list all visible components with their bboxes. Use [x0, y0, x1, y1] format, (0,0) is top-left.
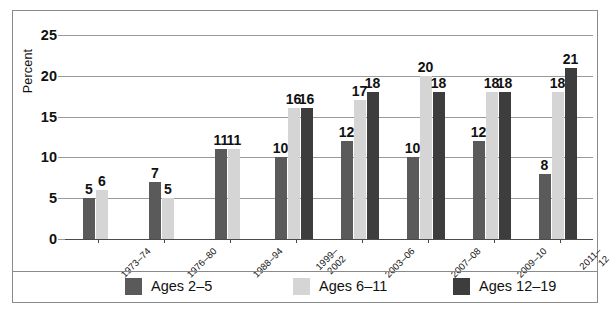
bar: [473, 141, 485, 239]
bar-group: 1111: [197, 35, 263, 239]
bar: [367, 92, 379, 239]
x-tick-mark: [560, 239, 561, 243]
bar-group: 81821: [527, 35, 593, 239]
x-tick-mark: [230, 239, 231, 243]
y-tick-label-25: 25: [17, 28, 57, 43]
bar: [407, 157, 419, 239]
legend-label: Ages 2–5: [151, 278, 212, 295]
legend-label: Ages 12–19: [479, 278, 556, 295]
y-tick-mark-20: [58, 76, 65, 77]
legend-item: Ages 12–19: [453, 278, 556, 295]
bar-value-label: 5: [155, 182, 181, 196]
bar-value-label: 21: [558, 52, 584, 66]
bar-value-label: 16: [294, 92, 320, 106]
bar: [215, 149, 227, 239]
bar: [354, 100, 366, 239]
y-tick-label-0: 0: [17, 232, 57, 247]
y-tick-label-10: 10: [17, 150, 57, 165]
bar: [433, 92, 445, 239]
bar: [228, 149, 240, 239]
bar-group: 56: [65, 35, 131, 239]
bar: [341, 141, 353, 239]
plot-area: Percent 0510152025 567511111016161217181…: [65, 35, 593, 239]
y-tick-mark-5: [58, 198, 65, 199]
y-tick-mark-15: [58, 117, 65, 118]
gridline-0: [65, 239, 593, 240]
legend-label: Ages 6–11: [319, 278, 387, 295]
legend-item: Ages 6–11: [293, 278, 387, 295]
x-tick-mark: [296, 239, 297, 243]
legend-swatch: [125, 278, 142, 295]
chart-figure: Percent 0510152025 567511111016161217181…: [0, 0, 612, 316]
x-tick-mark: [362, 239, 363, 243]
bar-value-label: 18: [426, 76, 452, 90]
bar: [96, 190, 108, 239]
bar-value-label: 6: [89, 174, 115, 188]
x-tick-mark: [428, 239, 429, 243]
y-tick-label-5: 5: [17, 191, 57, 206]
x-tick-mark: [164, 239, 165, 243]
legend-swatch: [453, 278, 470, 295]
legend-swatch: [293, 278, 310, 295]
y-tick-mark-10: [58, 157, 65, 158]
bar: [275, 157, 287, 239]
bar-group: 121718: [329, 35, 395, 239]
x-tick-mark: [494, 239, 495, 243]
bar: [552, 92, 564, 239]
bar: [420, 76, 432, 239]
bar: [565, 68, 577, 239]
bar: [162, 198, 174, 239]
bar: [539, 174, 551, 239]
bar-group: 102018: [395, 35, 461, 239]
y-tick-mark-25: [58, 35, 65, 36]
bar: [288, 108, 300, 239]
bar-value-label: 18: [360, 76, 386, 90]
y-tick-mark-0: [58, 239, 65, 240]
y-tick-label-20: 20: [17, 69, 57, 84]
bar: [301, 108, 313, 239]
chart-frame: Percent 0510152025 567511111016161217181…: [12, 10, 598, 303]
bar: [486, 92, 498, 239]
bar-group: 75: [131, 35, 197, 239]
bar-value-label: 11: [221, 133, 247, 147]
bar: [499, 92, 511, 239]
legend-item: Ages 2–5: [125, 278, 212, 295]
bar: [83, 198, 95, 239]
bar-value-label: 18: [492, 76, 518, 90]
x-tick-mark: [98, 239, 99, 243]
bar-value-label: 7: [142, 166, 168, 180]
chart-legend: Ages 2–5Ages 6–11Ages 12–19: [13, 271, 597, 302]
y-tick-label-15: 15: [17, 110, 57, 125]
bar-value-label: 20: [413, 60, 439, 74]
bar-group: 101616: [263, 35, 329, 239]
bar-group: 121818: [461, 35, 527, 239]
